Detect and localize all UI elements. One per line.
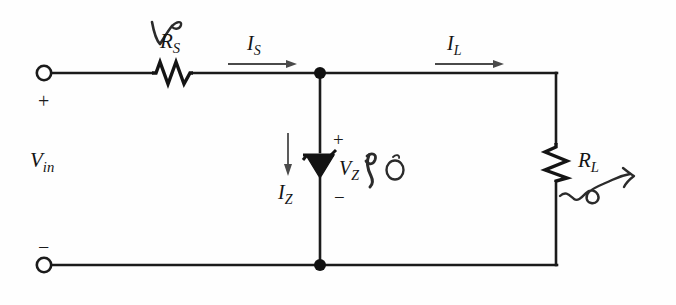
junction-node-bottom xyxy=(314,259,326,271)
circuit-diagram-canvas: Vin RS RL VZ IS IL IZ + − + − xyxy=(0,0,676,305)
label-is: IS xyxy=(247,33,261,58)
zener-diode-triangle xyxy=(306,155,334,178)
circuit-schematic-svg xyxy=(0,0,676,305)
handwritten-circle-near-vz xyxy=(387,155,404,179)
handwritten-scribble-near-vz xyxy=(366,154,375,187)
current-arrow-is-head xyxy=(286,60,297,68)
label-iz: IZ xyxy=(278,182,292,207)
polarity-zener-minus: − xyxy=(334,188,345,207)
label-il: IL xyxy=(447,33,461,58)
zener-diode xyxy=(303,150,336,178)
resistor-rl xyxy=(545,143,567,182)
current-arrow-iz-head xyxy=(284,164,292,176)
polarity-zener-plus: + xyxy=(333,130,344,149)
label-rs: RS xyxy=(160,31,180,56)
junction-node-top xyxy=(314,67,326,79)
resistor-rs xyxy=(152,62,193,84)
label-vz: VZ xyxy=(339,158,359,183)
label-vin: Vin xyxy=(30,150,54,175)
input-terminal-negative xyxy=(37,258,51,272)
polarity-input-plus: + xyxy=(38,91,49,111)
polarity-input-minus: − xyxy=(38,237,49,257)
input-terminal-positive xyxy=(37,66,51,80)
current-arrow-il-head xyxy=(493,60,504,68)
zener-diode-bar-right-bend xyxy=(331,150,336,155)
label-rl: RL xyxy=(578,150,599,175)
